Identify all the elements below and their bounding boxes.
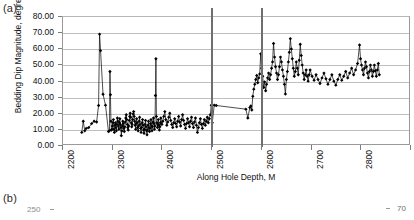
data-point [132, 110, 135, 113]
data-point [264, 89, 267, 92]
data-point [293, 75, 296, 78]
data-point [328, 78, 331, 81]
data-point [153, 128, 156, 131]
data-point [190, 116, 193, 119]
data-point [367, 76, 370, 79]
data-point [157, 118, 160, 121]
vertical-marker-line [261, 8, 263, 147]
data-point [282, 75, 285, 78]
data-point [192, 126, 195, 129]
data-point [196, 131, 199, 134]
x-axis-tick-label: 2800 [364, 150, 374, 169]
data-point [340, 79, 343, 82]
data-point [186, 117, 189, 120]
data-point [159, 116, 162, 119]
data-point [360, 63, 363, 66]
y-axis-tick-label: 50.00 [33, 59, 54, 69]
data-point [288, 51, 291, 54]
data-point [346, 76, 349, 79]
data-point [101, 93, 104, 96]
data-point [109, 93, 112, 96]
x-axis-tick-label: 2700 [315, 150, 325, 169]
data-point [181, 113, 184, 116]
data-point [165, 124, 168, 127]
data-point [350, 67, 353, 70]
data-point [304, 68, 307, 71]
data-point [318, 82, 321, 85]
data-point [108, 70, 111, 73]
y-axis-tick-label: 10.00 [33, 124, 54, 134]
data-point [168, 111, 171, 114]
data-point [112, 118, 115, 121]
data-point [149, 118, 152, 121]
data-point [136, 129, 139, 132]
data-point [303, 78, 306, 81]
data-point [278, 65, 281, 68]
data-point [320, 76, 323, 79]
data-point [356, 62, 359, 65]
x-axis-tick-label: 2300 [116, 150, 126, 169]
data-point [362, 73, 365, 76]
plot-area [62, 16, 410, 145]
data-point [369, 63, 372, 66]
data-point [139, 131, 142, 134]
data-point [295, 60, 298, 63]
data-point [169, 119, 172, 122]
y-axis-tick-label: 0.00 [37, 140, 54, 150]
data-point [184, 127, 187, 130]
y-axis-tick-label: 30.00 [33, 92, 54, 102]
data-point [251, 95, 254, 98]
data-point [270, 67, 273, 70]
data-point [252, 87, 255, 90]
data-series-bedding-dip [63, 17, 409, 145]
data-point [312, 79, 315, 82]
data-point [271, 60, 274, 63]
data-point [97, 104, 100, 107]
data-point [158, 128, 161, 131]
data-point [179, 124, 182, 127]
data-point [297, 73, 300, 76]
data-point [138, 116, 141, 119]
data-point [201, 127, 204, 130]
data-point [177, 115, 180, 118]
x-axis-title: Along Hole Depth, M [62, 172, 410, 182]
data-point [336, 78, 339, 81]
data-point [373, 63, 376, 66]
data-point [130, 125, 133, 128]
data-point [283, 83, 286, 86]
data-point [129, 111, 132, 114]
x-axis-tick-label: 2200 [66, 150, 76, 169]
data-point [310, 75, 313, 78]
data-point [144, 119, 147, 122]
data-point [289, 37, 292, 40]
data-point [171, 126, 174, 129]
data-point [104, 103, 107, 106]
y-axis-tick-label: 70.00 [33, 27, 54, 37]
data-point [332, 79, 335, 82]
data-point [287, 60, 290, 63]
data-point [135, 117, 138, 120]
figure-b-right-axis-tick [386, 208, 390, 209]
data-point [141, 118, 144, 121]
y-axis-tick-labels: 0.0010.0020.0030.0040.0050.0060.0070.008… [0, 16, 58, 145]
data-point [352, 73, 355, 76]
data-point [279, 55, 282, 58]
data-point [286, 70, 289, 73]
data-point [152, 116, 155, 119]
data-point [378, 73, 381, 76]
data-point [291, 57, 294, 60]
data-point [314, 73, 317, 76]
data-point [344, 70, 347, 73]
data-point [82, 120, 85, 123]
data-point [324, 77, 327, 80]
data-point [338, 73, 341, 76]
data-point [334, 83, 337, 86]
figure-b-left-axis-tick [50, 209, 54, 210]
data-point [256, 81, 259, 84]
data-point [299, 43, 302, 46]
data-point [194, 116, 197, 119]
data-point [298, 59, 301, 62]
data-point [342, 75, 345, 78]
data-point [290, 47, 293, 50]
data-point [125, 113, 128, 116]
